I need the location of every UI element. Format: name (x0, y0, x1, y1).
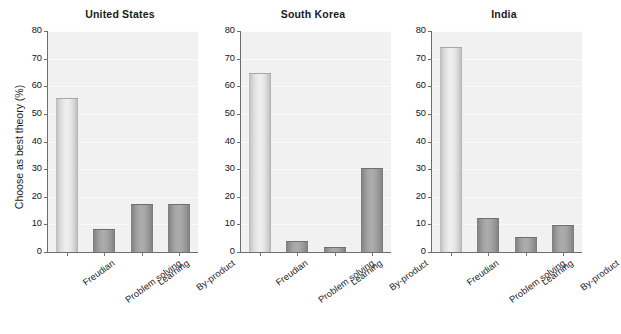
y-tick-label-3-50: 50 (402, 108, 426, 118)
y-axis-label: Choose as best theory (%) (13, 32, 25, 262)
y-tick-label-3-80: 80 (402, 25, 426, 35)
plot-area-3 (432, 31, 582, 252)
x-tick-mark-3-3 (526, 253, 527, 256)
y-tick-label-3-40: 40 (402, 136, 426, 146)
y-tick-mark-3-60 (428, 86, 431, 87)
y-tick-mark-3-30 (428, 169, 431, 170)
x-axis-line-3 (431, 252, 582, 253)
gridline-80 (432, 31, 582, 32)
y-tick-mark-3-50 (428, 114, 431, 115)
y-tick-mark-3-0 (428, 252, 431, 253)
x-category-label-3-1: Freudian (465, 258, 501, 288)
y-tick-label-3-10: 10 (402, 218, 426, 228)
y-tick-label-3-0: 0 (402, 246, 426, 256)
bar-3-3 (515, 237, 537, 252)
x-tick-mark-3-1 (451, 253, 452, 256)
x-tick-mark-3-4 (563, 253, 564, 256)
y-tick-label-3-20: 20 (402, 191, 426, 201)
y-tick-mark-3-10 (428, 224, 431, 225)
y-tick-mark-3-40 (428, 142, 431, 143)
y-tick-mark-3-70 (428, 59, 431, 60)
y-tick-label-3-70: 70 (402, 53, 426, 63)
x-tick-mark-3-2 (488, 253, 489, 256)
y-tick-label-3-30: 30 (402, 163, 426, 173)
y-tick-mark-3-20 (428, 197, 431, 198)
bar-3-2 (477, 218, 499, 252)
panel-title-3: India (404, 8, 604, 20)
bar-3-4 (552, 225, 574, 252)
bar-3-1 (440, 47, 462, 252)
y-tick-mark-3-80 (428, 31, 431, 32)
x-category-label-3-4: By-product (579, 258, 621, 293)
y-tick-label-3-60: 60 (402, 80, 426, 90)
